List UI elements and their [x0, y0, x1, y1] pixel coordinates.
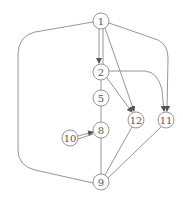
node-label: 8	[98, 125, 104, 136]
node-label: 11	[160, 115, 173, 126]
node-1: 1	[93, 13, 109, 29]
node-label: 12	[130, 115, 143, 126]
node-11: 11	[158, 112, 174, 128]
graph-svg: 12589101211	[0, 0, 183, 202]
edge-1-to-9	[18, 22, 93, 183]
node-2: 2	[93, 64, 109, 80]
node-10: 10	[62, 130, 78, 146]
node-label: 10	[64, 133, 77, 144]
node-label: 2	[98, 67, 104, 78]
node-label: 9	[98, 177, 104, 188]
edges-layer	[18, 22, 168, 183]
node-12: 12	[128, 112, 144, 128]
edge-2-to-11	[109, 71, 164, 111]
node-label: 5	[98, 93, 104, 104]
edge-10-to-8	[78, 132, 93, 136]
graph-diagram: 12589101211	[0, 0, 183, 202]
node-label: 1	[98, 16, 104, 27]
edge-1-to-11	[109, 23, 168, 111]
node-8: 8	[93, 122, 109, 138]
node-9: 9	[93, 174, 109, 190]
edge-10-to-8	[78, 134, 93, 139]
node-5: 5	[93, 90, 109, 106]
edge-11-to-9	[108, 127, 161, 178]
